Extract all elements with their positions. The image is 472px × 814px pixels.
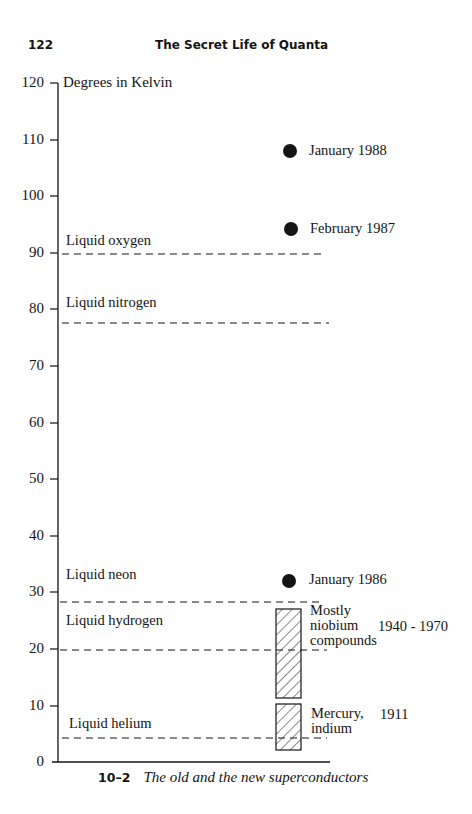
tick-20: 20 xyxy=(4,640,44,657)
mercury-line-2: indium xyxy=(311,721,364,736)
label-liquid-oxygen: Liquid oxygen xyxy=(66,232,151,249)
niobium-line-2: niobium xyxy=(310,618,377,633)
label-mercury: Mercury, indium xyxy=(311,706,364,736)
tick-120: 120 xyxy=(4,74,44,91)
label-liquid-neon: Liquid neon xyxy=(66,566,136,583)
y-axis-title: Degrees in Kelvin xyxy=(63,74,172,91)
chart-canvas xyxy=(0,0,472,814)
tick-90: 90 xyxy=(4,244,44,261)
label-jan-1988: January 1988 xyxy=(309,142,387,159)
point-jan-1988 xyxy=(283,144,297,158)
label-jan-1986: January 1986 xyxy=(309,571,387,588)
label-niobium-period: 1940 - 1970 xyxy=(378,618,448,635)
niobium-line-1: Mostly xyxy=(310,603,377,618)
figure-caption-text: The old and the new superconductors xyxy=(143,769,368,785)
tick-50: 50 xyxy=(4,470,44,487)
tick-40: 40 xyxy=(4,527,44,544)
label-mercury-period: 1911 xyxy=(380,706,408,723)
tick-10: 10 xyxy=(4,697,44,714)
mercury-line-1: Mercury, xyxy=(311,706,364,721)
label-liquid-hydrogen: Liquid hydrogen xyxy=(66,612,163,629)
label-niobium: Mostly niobium compounds xyxy=(310,603,377,648)
figure-number: 10–2 xyxy=(98,770,130,785)
tick-110: 110 xyxy=(4,131,44,148)
range-niobium xyxy=(276,609,301,698)
range-mercury xyxy=(276,704,301,750)
tick-70: 70 xyxy=(4,357,44,374)
tick-0: 0 xyxy=(4,753,44,770)
tick-100: 100 xyxy=(4,187,44,204)
tick-30: 30 xyxy=(4,583,44,600)
label-liquid-nitrogen: Liquid nitrogen xyxy=(66,294,157,311)
label-liquid-helium: Liquid helium xyxy=(69,715,152,732)
tick-80: 80 xyxy=(4,300,44,317)
figure-caption: 10–2 The old and the new superconductors xyxy=(98,767,368,786)
point-feb-1987 xyxy=(284,222,298,236)
y-ticks xyxy=(50,83,58,706)
tick-60: 60 xyxy=(4,414,44,431)
niobium-line-3: compounds xyxy=(310,633,377,648)
label-feb-1987: February 1987 xyxy=(310,220,395,237)
point-jan-1986 xyxy=(282,574,296,588)
